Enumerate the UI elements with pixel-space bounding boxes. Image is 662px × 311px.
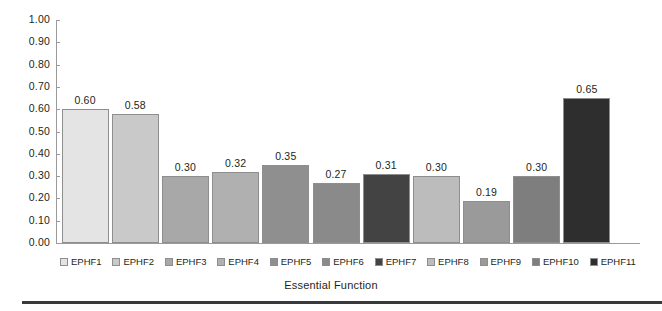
legend-label: EPHF4 xyxy=(228,256,259,267)
x-axis-title: Essential Function xyxy=(0,279,662,291)
bar xyxy=(363,174,410,243)
bar-value-label: 0.30 xyxy=(175,161,196,173)
bar-group: 0.30 xyxy=(513,176,560,243)
chart-legend: EPHF1EPHF2EPHF3EPHF4EPHF5EPHF6EPHF7EPHF8… xyxy=(56,256,640,267)
footer-rule xyxy=(22,301,662,304)
legend-label: EPHF1 xyxy=(71,256,102,267)
bar xyxy=(62,109,109,243)
legend-swatch-icon xyxy=(532,258,540,266)
bar-value-label: 0.19 xyxy=(476,186,497,198)
legend-label: EPHF5 xyxy=(281,256,312,267)
bar-value-label: 0.27 xyxy=(325,168,346,180)
legend-item-ephf2[interactable]: EPHF2 xyxy=(112,256,154,267)
bar-group: 0.35 xyxy=(262,165,309,243)
legend-swatch-icon xyxy=(270,258,278,266)
bar-value-label: 0.30 xyxy=(526,161,547,173)
bar xyxy=(413,176,460,243)
legend-item-ephf8[interactable]: EPHF8 xyxy=(427,256,469,267)
bar xyxy=(162,176,209,243)
bar-value-label: 0.65 xyxy=(576,83,597,95)
legend-label: EPHF9 xyxy=(491,256,522,267)
legend-item-ephf6[interactable]: EPHF6 xyxy=(322,256,364,267)
legend-label: EPHF8 xyxy=(438,256,469,267)
bar-group: 0.19 xyxy=(463,201,510,243)
legend-swatch-icon xyxy=(165,258,173,266)
bar-series: 0.600.580.300.320.350.270.310.300.190.30… xyxy=(0,0,662,260)
legend-label: EPHF11 xyxy=(601,256,636,267)
bar-group: 0.65 xyxy=(563,98,610,243)
legend-label: EPHF2 xyxy=(123,256,154,267)
legend-swatch-icon xyxy=(217,258,225,266)
legend-item-ephf10[interactable]: EPHF10 xyxy=(532,256,579,267)
bar-group: 0.27 xyxy=(313,183,360,243)
bar-value-label: 0.31 xyxy=(376,159,397,171)
bar xyxy=(112,114,159,243)
bar xyxy=(513,176,560,243)
legend-swatch-icon xyxy=(590,258,598,266)
legend-label: EPHF3 xyxy=(176,256,207,267)
bar xyxy=(463,201,510,243)
bar-group: 0.60 xyxy=(62,109,109,243)
legend-item-ephf1[interactable]: EPHF1 xyxy=(60,256,102,267)
legend-label: EPHF6 xyxy=(333,256,364,267)
legend-label: EPHF7 xyxy=(386,256,417,267)
bar-chart-figure: 1.000.900.800.700.600.500.400.300.200.10… xyxy=(0,0,662,311)
bar-value-label: 0.32 xyxy=(225,157,246,169)
legend-item-ephf9[interactable]: EPHF9 xyxy=(480,256,522,267)
legend-item-ephf11[interactable]: EPHF11 xyxy=(590,256,636,267)
legend-item-ephf3[interactable]: EPHF3 xyxy=(165,256,207,267)
bar-value-label: 0.35 xyxy=(275,150,296,162)
bar-group: 0.30 xyxy=(162,176,209,243)
legend-item-ephf5[interactable]: EPHF5 xyxy=(270,256,312,267)
bar xyxy=(212,172,259,243)
legend-swatch-icon xyxy=(322,258,330,266)
bar-group: 0.58 xyxy=(112,114,159,243)
legend-item-ephf7[interactable]: EPHF7 xyxy=(375,256,417,267)
bar-value-label: 0.30 xyxy=(426,161,447,173)
bar-group: 0.30 xyxy=(413,176,460,243)
bar-group: 0.32 xyxy=(212,172,259,243)
legend-item-ephf4[interactable]: EPHF4 xyxy=(217,256,259,267)
legend-label: EPHF10 xyxy=(543,256,579,267)
legend-swatch-icon xyxy=(112,258,120,266)
legend-swatch-icon xyxy=(60,258,68,266)
legend-swatch-icon xyxy=(375,258,383,266)
bar-value-label: 0.58 xyxy=(125,99,146,111)
legend-swatch-icon xyxy=(427,258,435,266)
bar-value-label: 0.60 xyxy=(74,94,95,106)
bar xyxy=(313,183,360,243)
legend-swatch-icon xyxy=(480,258,488,266)
bar xyxy=(563,98,610,243)
bar-group: 0.31 xyxy=(363,174,410,243)
bar xyxy=(262,165,309,243)
